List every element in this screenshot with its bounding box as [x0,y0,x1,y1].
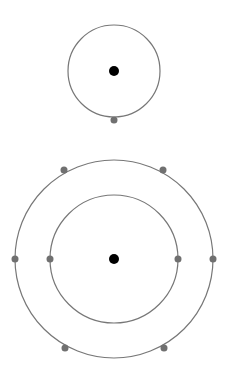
electron [175,256,182,263]
electron [161,345,168,352]
atom-diagram [0,0,230,378]
atom-2 [12,160,217,358]
nucleus [109,66,119,76]
electron [160,167,167,174]
electron [62,345,69,352]
atom-1 [68,25,160,124]
electron [210,256,217,263]
electron [12,256,19,263]
electron [47,256,54,263]
electron [61,167,68,174]
nucleus [109,254,119,264]
electron [111,117,118,124]
